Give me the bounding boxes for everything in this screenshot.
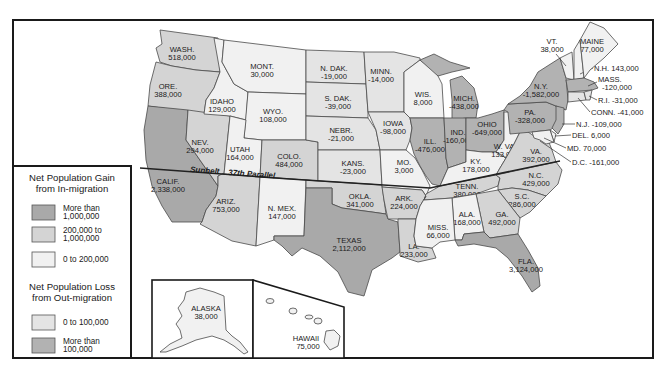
svg-text:1,000,000: 1,000,000 — [63, 212, 100, 221]
svg-text:178,000: 178,000 — [462, 165, 489, 174]
svg-text:D.C. -161,000: D.C. -161,000 — [572, 158, 619, 167]
svg-text:-98,000: -98,000 — [380, 127, 406, 136]
svg-text:8,000: 8,000 — [413, 98, 432, 107]
svg-text:0 to 200,000: 0 to 200,000 — [63, 255, 109, 264]
svg-text:R.I. -31,000: R.I. -31,000 — [598, 96, 638, 105]
svg-text:286,000: 286,000 — [508, 200, 535, 209]
svg-text:2,112,000: 2,112,000 — [332, 244, 365, 253]
svg-text:388,000: 388,000 — [154, 90, 181, 99]
alaska-inset: ALASKA 38,000 — [152, 280, 253, 358]
svg-text:753,000: 753,000 — [212, 205, 239, 214]
svg-text:429,000: 429,000 — [522, 179, 549, 188]
svg-text:-328,000: -328,000 — [515, 116, 545, 125]
legend-gain-title: Net Population Gain — [29, 172, 115, 183]
svg-text:N.H. 143,000: N.H. 143,000 — [594, 64, 639, 73]
svg-text:147,000: 147,000 — [268, 212, 295, 221]
svg-text:224,000: 224,000 — [390, 202, 417, 211]
legend-loss-title: Net Population Loss — [29, 281, 115, 292]
svg-text:164,000: 164,000 — [226, 153, 253, 162]
legend-swatch-gain-over-1m — [32, 205, 55, 220]
svg-text:38,000: 38,000 — [540, 45, 563, 54]
state-n-y: N.Y. -1,582,000 — [508, 58, 568, 110]
svg-text:392,000: 392,000 — [522, 155, 549, 164]
state-pa: PA. -328,000 — [504, 102, 560, 134]
svg-text:-120,000: -120,000 — [602, 83, 632, 92]
state-fla: FLA. 3,124,000 — [455, 232, 543, 292]
svg-text:-19,000: -19,000 — [321, 72, 347, 81]
hawaii-inset: HAWAII 75,000 — [253, 280, 344, 358]
svg-text:-39,000: -39,000 — [325, 102, 351, 111]
svg-text:DEL. 6,000: DEL. 6,000 — [572, 131, 610, 140]
svg-text:-476,000: -476,000 — [415, 145, 445, 154]
svg-text:341,000: 341,000 — [346, 200, 373, 209]
legend-swatch-gain-200k-1m — [32, 227, 55, 242]
state-wyo: WYO. 108,000 — [244, 92, 306, 140]
svg-text:484,000: 484,000 — [275, 160, 302, 169]
svg-text:CONN. -41,000: CONN. -41,000 — [591, 108, 643, 117]
svg-text:3,124,000: 3,124,000 — [509, 265, 543, 274]
svg-text:100,000: 100,000 — [63, 345, 93, 354]
svg-text:from In-migration: from In-migration — [36, 183, 109, 194]
svg-text:-438,000: -438,000 — [449, 102, 479, 111]
svg-text:294,000: 294,000 — [186, 146, 213, 155]
state-r-i: R.I. -31,000 — [584, 90, 638, 105]
svg-text:3,000: 3,000 — [394, 166, 413, 175]
svg-text:-649,000: -649,000 — [472, 128, 502, 137]
svg-text:75,000: 75,000 — [296, 342, 319, 351]
svg-text:129,000: 129,000 — [208, 105, 235, 114]
svg-text:38,000: 38,000 — [194, 312, 217, 321]
svg-text:-21,000: -21,000 — [328, 134, 354, 143]
svg-text:1,000,000: 1,000,000 — [63, 234, 100, 243]
svg-text:from Out-migration: from Out-migration — [32, 292, 112, 303]
svg-text:-14,000: -14,000 — [368, 75, 394, 84]
svg-text:108,000: 108,000 — [259, 115, 286, 124]
svg-text:-1,582,000: -1,582,000 — [523, 90, 559, 99]
svg-text:518,000: 518,000 — [168, 53, 195, 62]
svg-text:492,000: 492,000 — [488, 218, 515, 227]
state-s-dak: S. DAK. -39,000 — [306, 82, 368, 118]
state-kans: KANS. -23,000 — [318, 150, 382, 185]
svg-text:66,000: 66,000 — [426, 231, 449, 240]
svg-text:N.J. -109,000: N.J. -109,000 — [576, 120, 622, 129]
legend-swatch-gain-0-200k — [32, 252, 55, 267]
svg-text:77,000: 77,000 — [580, 45, 603, 54]
svg-text:2,338,000: 2,338,000 — [151, 185, 185, 194]
state-n-dak: N. DAK. -19,000 — [306, 50, 366, 84]
legend-swatch-loss-0-100k — [32, 315, 55, 330]
svg-text:MD. 70,000: MD. 70,000 — [567, 144, 606, 153]
legend: Net Population Gain from In-migration Mo… — [13, 166, 131, 358]
svg-text:0 to 100,000: 0 to 100,000 — [63, 318, 109, 327]
legend-swatch-loss-over-100k — [32, 338, 55, 353]
svg-text:168,000: 168,000 — [453, 218, 480, 227]
svg-text:30,000: 30,000 — [250, 70, 273, 79]
migration-map: WASH. 518,000 ORE. 388,000 CALIF. 2,338,… — [0, 0, 665, 371]
svg-text:233,000: 233,000 — [400, 250, 427, 259]
svg-text:-23,000: -23,000 — [340, 167, 366, 176]
